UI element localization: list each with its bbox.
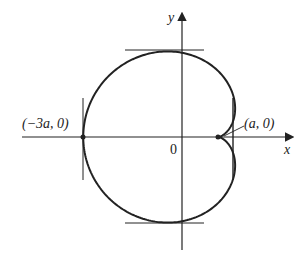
cusp-point-label: (a, 0) [244, 116, 274, 132]
y-axis-label: y [168, 10, 174, 26]
leftmost-point-label: (−3a, 0) [22, 116, 69, 132]
cusp-point-dot [216, 135, 221, 140]
cardioid-diagram: y x 0 (−3a, 0) (a, 0) [0, 0, 303, 265]
origin-label: 0 [170, 142, 177, 158]
curve-canvas [0, 0, 303, 265]
leftmost-point-dot [81, 135, 86, 140]
x-axis-label: x [284, 142, 290, 158]
